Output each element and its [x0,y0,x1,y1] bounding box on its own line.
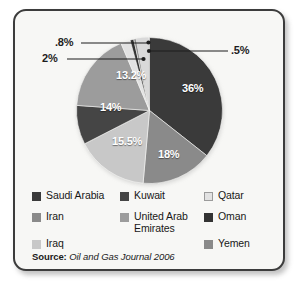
legend-label-kuwait: Kuwait [134,189,165,201]
legend-item-oman[interactable]: Oman [204,210,272,222]
pie-callout-label-yemen: .5% [231,44,249,56]
legend-label-oman: Oman [218,210,246,222]
pie-label-saudi-arabia: 36% [182,82,203,94]
legend-item-kuwait[interactable]: Kuwait [120,189,204,201]
pie-callout-label-oman: .8% [55,36,73,48]
legend-swatch-yemen [204,240,213,249]
pie-label-united-arab-emirates: 13.2% [116,69,146,81]
legend-swatch-kuwait [120,192,129,201]
legend-swatch-oman [204,213,213,222]
pie-callout-label-qatar: 2% [42,52,58,64]
legend-item-qatar[interactable]: Qatar [204,189,272,201]
source-label: Source: [32,251,67,262]
legend-label-united-arab-emirates: United Arab Emirates [134,210,204,234]
pie-chart-area: 36% 18% 15.5% 14% 13.2% .8% 2% .5% [15,11,283,186]
legend-item-iraq[interactable]: Iraq [32,237,120,249]
legend-swatch-qatar [204,192,213,201]
legend-swatch-iran [32,213,41,222]
legend-item-iran[interactable]: Iran [32,210,120,222]
legend-item-united-arab-emirates[interactable]: United Arab Emirates [120,210,204,234]
legend-label-saudi-arabia: Saudi Arabia [46,189,104,201]
chart-legend: Saudi Arabia Kuwait Qatar Iran United Ar… [32,189,272,255]
pie-label-iran: 18% [158,148,179,160]
pie-chart [74,35,226,187]
legend-swatch-united-arab-emirates [120,213,129,222]
source-text: Oil and Gas Journal 2006 [69,251,174,262]
legend-swatch-saudi-arabia [32,192,41,201]
legend-label-iraq: Iraq [46,237,64,249]
infographic-panel-wrapper: 36% 18% 15.5% 14% 13.2% .8% 2% .5% Saudi… [0,0,302,284]
legend-item-saudi-arabia[interactable]: Saudi Arabia [32,189,120,201]
infographic-panel: 36% 18% 15.5% 14% 13.2% .8% 2% .5% Saudi… [13,9,285,271]
pie-label-kuwait: 14% [100,101,121,113]
pie-label-iraq: 15.5% [112,135,142,147]
legend-label-qatar: Qatar [218,189,244,201]
legend-swatch-iraq [32,240,41,249]
legend-item-yemen[interactable]: Yemen [204,237,272,249]
legend-label-iran: Iran [46,210,64,222]
legend-label-yemen: Yemen [218,237,250,249]
source-attribution: Source: Oil and Gas Journal 2006 [32,251,175,262]
